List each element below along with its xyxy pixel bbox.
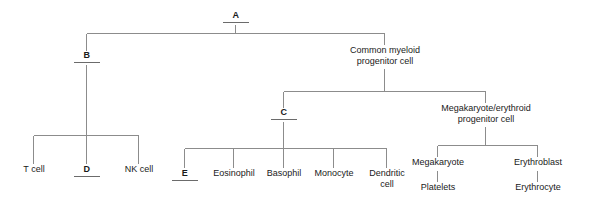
node-a[interactable]: A <box>223 10 249 23</box>
node-common-myeloid-progenitor: Common myeloid progenitor cell <box>320 45 450 67</box>
node-megakaryote-erythroid-progenitor: Megakaryote/erythroid progenitor cell <box>406 103 566 125</box>
node-monocyte: Monocyte <box>305 168 363 179</box>
node-erythroblast: Erythroblast <box>502 157 574 168</box>
node-e[interactable]: E <box>172 168 198 181</box>
node-b[interactable]: B <box>74 50 100 63</box>
node-megakaryote: Megakaryote <box>400 157 476 168</box>
node-d[interactable]: D <box>74 164 100 177</box>
node-platelets: Platelets <box>408 182 468 193</box>
lineage-diagram: A B Common myeloid progenitor cell C Meg… <box>0 0 590 207</box>
node-basophil: Basophil <box>256 168 312 179</box>
node-dendritic-cell: Dendritic cell <box>362 168 412 190</box>
node-nk-cell: NK cell <box>109 164 169 175</box>
node-c[interactable]: C <box>271 107 297 120</box>
node-erythrocyte: Erythrocyte <box>502 182 574 193</box>
node-t-cell: T cell <box>4 164 64 175</box>
node-eosinophil: Eosinophil <box>204 168 264 179</box>
